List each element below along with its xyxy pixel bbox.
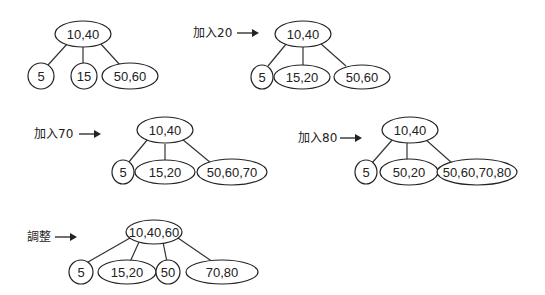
edge <box>130 242 139 262</box>
edge <box>425 139 452 163</box>
tree-step-initial: 10,40 5 15 50,60 <box>28 21 158 89</box>
tree-step-insert-70: 加入70 10,40 5 15,20 50,60,70 <box>34 117 267 185</box>
root-node-text: 10,40 <box>394 123 427 138</box>
child-node-text: 15 <box>77 69 91 84</box>
child-node-text: 70,80 <box>206 265 239 280</box>
b-tree-diagram: 10,40 5 15 50,60 加入20 10,40 5 15,20 50,6… <box>0 0 545 295</box>
child-node-text: 5 <box>77 265 84 280</box>
step-label: 加入20 <box>193 26 232 40</box>
root-node-text: 10,40,60 <box>129 225 180 240</box>
edge <box>88 238 130 262</box>
edge <box>48 43 68 65</box>
edge <box>372 139 393 163</box>
child-node-text: 5 <box>362 165 369 180</box>
child-node-text: 50,60 <box>114 69 147 84</box>
step-label: 加入70 <box>34 127 73 141</box>
root-node-text: 10,40 <box>67 27 100 42</box>
child-node-text: 50,60,70,80 <box>443 165 512 180</box>
child-node-text: 50,60,70 <box>207 165 258 180</box>
root-node-text: 10,40 <box>149 123 182 138</box>
arrow-icon-head <box>355 134 362 142</box>
edge <box>320 43 346 66</box>
step-label: 調整 <box>27 229 51 244</box>
child-node-text: 50,20 <box>393 165 426 180</box>
edge <box>128 139 148 163</box>
child-node-text: 5 <box>119 165 126 180</box>
tree-step-insert-20: 加入20 10,40 5 15,20 50,60 <box>193 21 390 89</box>
tree-step-insert-80: 加入80 10,40 5 50,20 50,60,70,80 <box>298 117 517 185</box>
child-node-text: 50,60 <box>346 70 379 85</box>
step-label: 加入80 <box>298 131 337 145</box>
edge <box>268 43 287 66</box>
root-node-text: 10,40 <box>287 27 320 42</box>
arrow-icon-head <box>94 130 101 138</box>
child-node-text: 15,20 <box>286 70 319 85</box>
edge <box>163 242 167 262</box>
child-node-text: 50 <box>161 265 175 280</box>
child-node-text: 5 <box>37 69 44 84</box>
arrow-icon-head <box>70 233 77 241</box>
edge <box>100 43 120 65</box>
child-node-text: 5 <box>258 70 265 85</box>
edge <box>178 238 213 262</box>
arrow-icon-head <box>252 29 259 37</box>
child-node-text: 15,20 <box>111 265 144 280</box>
edge <box>182 139 211 163</box>
tree-step-adjust: 調整 10,40,60 5 15,20 50 70,80 <box>27 220 258 284</box>
child-node-text: 15,20 <box>149 165 182 180</box>
